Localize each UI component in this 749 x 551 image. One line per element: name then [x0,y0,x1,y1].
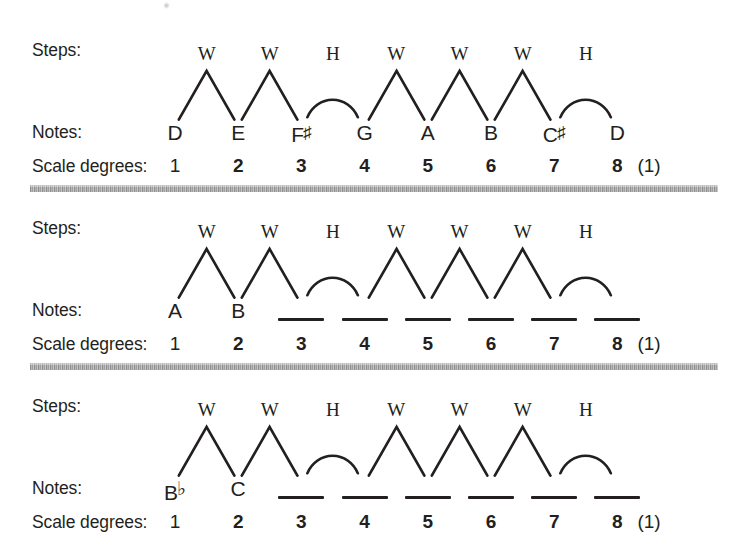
scale-degree-5: 5 [400,156,456,175]
note-blank-line-4[interactable] [342,496,388,499]
note-slot-2: B [210,300,266,321]
note-slot-3: F♯ [273,122,329,145]
whole-step-peak-icon [428,420,491,478]
step-letter: H [554,222,617,241]
scale-degree-4: 4 [337,156,393,175]
scale-degrees-row-label: Scale degrees: [32,512,147,533]
step-whole-1: W [175,400,238,478]
scale-degree-2: 2 [210,156,266,175]
step-letter: W [175,222,238,241]
step-letter: W [428,222,491,241]
note-slot-5: A [400,122,456,143]
step-letter: H [554,400,617,419]
scale-degree-3: 3 [273,512,329,531]
notes-row-label: Notes: [32,300,82,321]
step-whole-5: W [428,222,491,300]
step-whole-4: W [365,222,428,300]
note-letter: G [356,121,372,144]
section-divider [30,185,718,192]
scale-degree-6: 6 [463,512,519,531]
step-letter: W [491,400,554,419]
octave-degree-note: (1) [637,156,660,175]
note-slot-6: B [463,122,519,143]
note-slot-7: C♯ [526,122,582,145]
whole-step-peak-icon [175,242,238,300]
step-whole-5: W [428,400,491,478]
half-step-arc-icon [554,64,617,122]
note-blank-line-7[interactable] [531,318,577,321]
step-letter: H [301,222,364,241]
scale-degree-7: 7 [526,334,582,353]
scale-degree-2: 2 [210,334,266,353]
scan-artifact [163,2,170,9]
step-letter: W [491,44,554,63]
scale-degree-1: 1 [147,334,203,353]
step-letter: W [175,400,238,419]
whole-step-peak-icon [175,64,238,122]
half-step-arc-icon [554,420,617,478]
scale-degree-2: 2 [210,512,266,531]
note-blank-line-6[interactable] [468,496,514,499]
step-half-3: H [301,222,364,300]
step-half-7: H [554,44,617,122]
step-whole-2: W [238,44,301,122]
note-letter: C [231,477,246,500]
scale-degree-5: 5 [400,334,456,353]
step-letter: W [365,400,428,419]
flat-icon: ♭ [177,478,186,499]
scale-degree-4: 4 [337,334,393,353]
step-letter: H [301,44,364,63]
note-letter: B [231,299,245,322]
step-letter: H [554,44,617,63]
note-letter: E [231,121,245,144]
whole-step-peak-icon [365,64,428,122]
step-half-7: H [554,222,617,300]
step-whole-6: W [491,400,554,478]
sharp-icon: ♯ [303,123,312,142]
scale-degrees-row-label: Scale degrees: [32,334,147,355]
step-letter: W [428,400,491,419]
step-whole-1: W [175,222,238,300]
step-half-3: H [301,400,364,478]
note-blank-line-8[interactable] [594,318,640,321]
note-letter: C [543,123,558,146]
note-blank-line-8[interactable] [594,496,640,499]
note-letter: A [168,299,182,322]
notes-row-label: Notes: [32,122,82,143]
note-slot-1: A [147,300,203,321]
note-letter: D [610,121,625,144]
note-blank-line-5[interactable] [405,496,451,499]
scale-block-b-flat-major: Steps:WWHWWWHNotes:B♭CScale degrees:1234… [0,378,749,551]
note-blank-line-3[interactable] [278,496,324,499]
half-step-arc-icon [301,242,364,300]
half-step-arc-icon [554,242,617,300]
step-letter: W [238,222,301,241]
section-divider [30,363,718,370]
note-slot-2: C [210,478,266,499]
note-blank-line-5[interactable] [405,318,451,321]
note-blank-line-7[interactable] [531,496,577,499]
step-half-7: H [554,400,617,478]
scale-degree-7: 7 [526,512,582,531]
whole-step-peak-icon [428,242,491,300]
whole-step-peak-icon [491,64,554,122]
step-pattern-strip: WWHWWWH [0,222,749,300]
scale-degree-6: 6 [463,156,519,175]
scale-degree-6: 6 [463,334,519,353]
sharp-icon: ♯ [557,123,566,142]
note-blank-line-4[interactable] [342,318,388,321]
note-blank-line-6[interactable] [468,318,514,321]
whole-step-peak-icon [238,420,301,478]
scale-degree-1: 1 [147,156,203,175]
scale-degree-7: 7 [526,156,582,175]
scale-degree-1: 1 [147,512,203,531]
scale-degree-4: 4 [337,512,393,531]
scale-degrees-row-label: Scale degrees: [32,156,147,177]
step-letter: W [491,222,554,241]
whole-step-peak-icon [175,420,238,478]
whole-step-peak-icon [365,242,428,300]
note-blank-line-3[interactable] [278,318,324,321]
half-step-arc-icon [301,64,364,122]
scale-degree-5: 5 [400,512,456,531]
note-slot-2: E [210,122,266,143]
